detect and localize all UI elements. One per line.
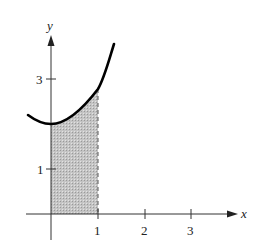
tick-label-x3: 3	[187, 223, 194, 238]
y-axis-arrow-icon	[48, 35, 55, 46]
tick-label-y1: 1	[37, 162, 44, 177]
chart: 1 2 3 3 1 x y	[0, 0, 253, 250]
x-axis-arrow-icon	[227, 211, 238, 218]
tick-label-y3: 3	[36, 72, 43, 87]
tick-label-x2: 2	[141, 223, 148, 238]
y-axis-label: y	[45, 18, 53, 33]
shaded-area	[51, 89, 98, 214]
x-axis-label: x	[240, 206, 247, 221]
tick-label-x1: 1	[94, 223, 101, 238]
